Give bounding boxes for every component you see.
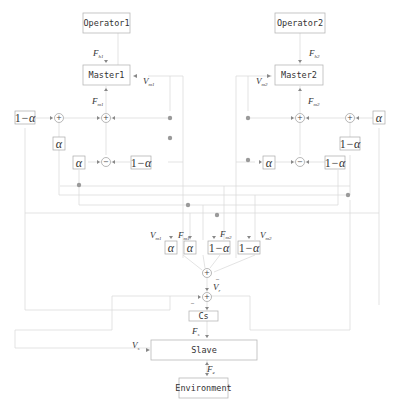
sum-junction-cs: + _	[190, 293, 212, 305]
teleoperation-block-diagram: Operator1 Operator2 Master1 Master2 Cs S…	[0, 0, 395, 408]
cs-block: Cs	[189, 311, 218, 321]
signal-label-fh2: Fh2	[308, 48, 320, 59]
slave-block: Slave	[151, 340, 257, 360]
svg-text:+: +	[297, 114, 303, 122]
svg-text:α: α	[76, 156, 83, 170]
gain-one-minus-alpha: 1−α	[340, 137, 361, 151]
sum-junction: +	[296, 114, 305, 123]
svg-text:+: +	[103, 114, 109, 122]
junction-node	[168, 116, 172, 120]
signal-label-vs: Vs	[132, 340, 140, 351]
slave-label: Slave	[191, 345, 217, 355]
connection-wires	[15, 33, 379, 376]
svg-text:α: α	[266, 156, 273, 170]
signal-label-fm1: Fm1	[91, 96, 104, 107]
svg-text:1−α: 1−α	[131, 156, 152, 170]
svg-text:+: +	[347, 114, 353, 122]
svg-text:_: _	[215, 272, 220, 280]
signal-label-vm2: Vm2	[256, 76, 268, 87]
junction-node	[186, 203, 190, 207]
svg-text:α: α	[376, 111, 383, 125]
signal-label-vm1-bottom: Vm1	[150, 230, 162, 241]
svg-text:+: +	[204, 269, 210, 277]
svg-text:1−α: 1−α	[325, 156, 346, 170]
svg-text:1−α: 1−α	[209, 241, 230, 255]
cs-label: Cs	[198, 311, 208, 321]
gain-alpha-fm1: α	[184, 241, 196, 255]
operator2-label: Operator2	[277, 18, 323, 28]
gain-one-minus-alpha: 1−α	[131, 156, 152, 170]
gain-one-minus-alpha-fm2: 1−α	[208, 241, 230, 255]
difference-junction: −	[296, 158, 305, 167]
environment-block: Environment	[175, 378, 231, 398]
svg-text:−: −	[297, 158, 303, 166]
arrow-heads	[50, 60, 359, 376]
operator2-block: Operator2	[275, 13, 325, 33]
svg-text:α: α	[56, 137, 63, 151]
operator1-label: Operator1	[83, 18, 129, 28]
svg-text:+: +	[56, 114, 62, 122]
gain-alpha: α	[73, 156, 85, 170]
signal-label-vm1: Vm1	[143, 76, 155, 87]
operator1-block: Operator1	[83, 13, 130, 33]
svg-text:1−α: 1−α	[15, 111, 36, 125]
signal-label-fm2: Fm2	[307, 96, 320, 107]
signal-label-fm2-bottom: Fm2	[219, 229, 232, 240]
signal-label-fs: Fs	[191, 326, 200, 337]
svg-text:α: α	[187, 241, 194, 255]
svg-text:1−α: 1−α	[340, 137, 361, 151]
master2-block: Master2	[275, 65, 323, 85]
gain-one-minus-alpha: 1−α	[15, 111, 36, 125]
svg-text:−: −	[103, 158, 109, 166]
gain-alpha-vm1: α	[165, 241, 177, 255]
gain-alpha: α	[373, 111, 385, 125]
signal-label-vr: Vr	[213, 282, 221, 293]
gain-one-minus-alpha-vm2: 1−α	[238, 241, 260, 255]
difference-junction: −	[102, 158, 111, 167]
signal-label-fm1-bottom: Fm1	[177, 230, 190, 241]
svg-text:α: α	[168, 241, 175, 255]
sum-junction: +	[102, 114, 111, 123]
junction-node	[215, 213, 219, 217]
svg-text:+: +	[204, 293, 210, 301]
svg-text:_: _	[190, 296, 195, 304]
junction-node	[346, 193, 350, 197]
sum-junction: +	[55, 114, 64, 123]
master2-label: Master2	[281, 70, 317, 80]
gain-alpha: α	[53, 137, 65, 151]
svg-text:1−α: 1−α	[239, 241, 260, 255]
junction-node	[246, 116, 250, 120]
environment-label: Environment	[175, 383, 231, 393]
signal-label-vm2-bottom: Vm2	[260, 230, 272, 241]
junction-node	[246, 158, 250, 162]
signal-label-fe: Fe	[206, 364, 216, 375]
sum-junction: +	[346, 114, 355, 123]
junction-nodes	[77, 116, 350, 217]
master1-label: Master1	[89, 70, 125, 80]
junction-node	[168, 136, 172, 140]
signal-label-fh1: Fh1	[92, 48, 104, 59]
junction-node	[77, 183, 81, 187]
master1-block: Master1	[83, 65, 130, 85]
gain-alpha: α	[263, 156, 275, 170]
gain-one-minus-alpha: 1−α	[325, 156, 346, 170]
